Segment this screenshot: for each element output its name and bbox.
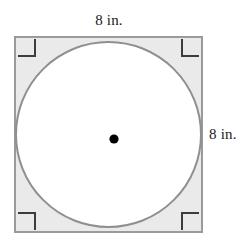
top-side-dimension-label: 8 in. (0, 13, 218, 28)
geometry-figure: 8 in. 8 in. (0, 0, 250, 251)
circle-center-dot (109, 134, 118, 143)
inscribed-circle (16, 42, 201, 227)
right-side-dimension-label: 8 in. (209, 127, 237, 142)
